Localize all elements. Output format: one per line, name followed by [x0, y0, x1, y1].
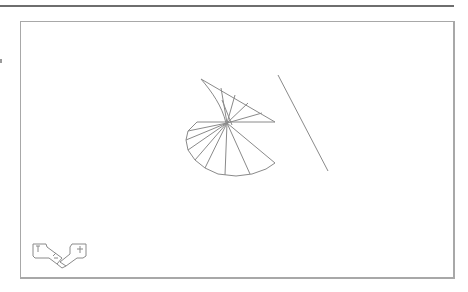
drawing-canvas[interactable]	[0, 0, 468, 292]
helical-fan-wireframe[interactable]	[186, 79, 275, 176]
ucs-icon	[33, 244, 86, 268]
diagonal-line[interactable]	[278, 75, 328, 171]
